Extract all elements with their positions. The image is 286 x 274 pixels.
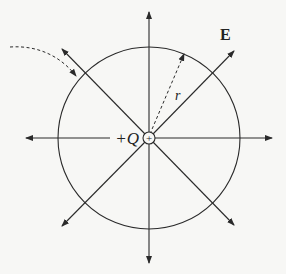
charge-sign: + xyxy=(146,132,152,144)
field-diagram: + +Q E r xyxy=(0,0,286,274)
diagram-canvas: + +Q E r xyxy=(0,0,286,274)
field-line-down-left xyxy=(62,142,145,226)
field-label: E xyxy=(220,26,231,43)
charge-label: +Q xyxy=(115,129,139,148)
field-line-up-left xyxy=(62,49,145,134)
surface-pointer-arrow xyxy=(10,47,76,76)
field-line-down-right xyxy=(153,142,234,225)
field-line-up-right xyxy=(153,51,234,134)
radius-label: r xyxy=(175,88,181,103)
